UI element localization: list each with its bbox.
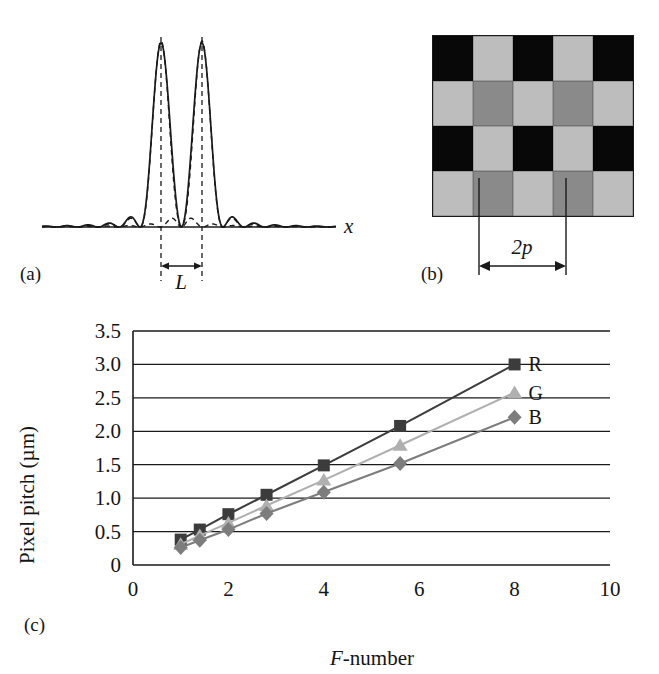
airy-pattern-right bbox=[42, 41, 336, 227]
mosaic-cell-black bbox=[433, 36, 473, 81]
data-point-B bbox=[508, 410, 522, 425]
series-label-B: B bbox=[529, 406, 542, 428]
chart-x-axis-title: F-number bbox=[329, 646, 414, 670]
y-tick-label: 2.0 bbox=[95, 419, 121, 443]
mosaic-cell-light bbox=[593, 81, 633, 126]
data-point-R bbox=[394, 420, 406, 432]
pitch-arrow bbox=[479, 261, 566, 271]
panel-c-label: (c) bbox=[24, 614, 45, 636]
mosaic-cell-light bbox=[433, 81, 473, 126]
data-point-G bbox=[507, 386, 522, 399]
series-label-G: G bbox=[529, 382, 543, 404]
panel-a-curves: L x bbox=[42, 37, 354, 294]
chart-y-tick-labels: 00.51.01.52.02.53.03.5 bbox=[95, 319, 121, 577]
x-tick-label: 6 bbox=[414, 577, 425, 601]
x-axis-label: x bbox=[343, 214, 354, 238]
separation-label-L: L bbox=[174, 270, 187, 294]
panel-c-chart: 00.51.01.52.02.53.03.5 0246810 RGB F-num… bbox=[0, 300, 659, 674]
chart-x-tick-labels: 0246810 bbox=[128, 577, 621, 601]
chart-y-axis-title: Pixel pitch (µm) bbox=[15, 426, 39, 564]
y-tick-label: 1.0 bbox=[95, 486, 121, 510]
y-tick-label: 2.5 bbox=[95, 386, 121, 410]
y-tick-label: 0 bbox=[111, 553, 122, 577]
series-label-R: R bbox=[529, 353, 543, 375]
x-tick-label: 0 bbox=[128, 577, 139, 601]
y-tick-label: 3.5 bbox=[95, 319, 121, 343]
x-tick-label: 10 bbox=[600, 577, 621, 601]
mosaic-cell-black bbox=[513, 36, 553, 81]
mosaic-cell-light bbox=[553, 36, 593, 81]
mosaic-cell-mid bbox=[473, 81, 513, 126]
mosaic-cell-light bbox=[513, 81, 553, 126]
x-tick-label: 4 bbox=[319, 577, 330, 601]
data-point-B bbox=[393, 456, 407, 471]
combined-intensity-curve bbox=[42, 43, 336, 227]
data-point-G bbox=[393, 438, 408, 451]
panel-b-pitch-annotation: 2p bbox=[420, 160, 650, 290]
chart-series-group bbox=[173, 358, 522, 555]
y-tick-label: 3.0 bbox=[95, 352, 121, 376]
data-point-G bbox=[316, 473, 331, 486]
pitch-label-2p: 2p bbox=[512, 235, 533, 259]
data-point-R bbox=[318, 459, 330, 471]
panel-a-diffraction-plot: L x bbox=[0, 0, 400, 300]
airy-pattern-left bbox=[42, 41, 336, 227]
chart-series-labels: RGB bbox=[529, 353, 543, 428]
separation-arrow-L bbox=[161, 263, 202, 270]
mosaic-cell-mid bbox=[553, 81, 593, 126]
y-tick-label: 0.5 bbox=[95, 520, 121, 544]
x-tick-label: 2 bbox=[223, 577, 234, 601]
panel-b-label: (b) bbox=[421, 263, 443, 285]
x-tick-label: 8 bbox=[509, 577, 520, 601]
y-tick-label: 1.5 bbox=[95, 453, 121, 477]
figure-container: L x (a) 2p (b) 00.51.01.52.02.53.03.5 02… bbox=[0, 0, 659, 674]
data-point-B bbox=[317, 485, 331, 500]
panel-a-label: (a) bbox=[20, 263, 41, 285]
data-point-R bbox=[509, 358, 521, 370]
mosaic-cell-black bbox=[593, 36, 633, 81]
mosaic-cell-light bbox=[473, 36, 513, 81]
